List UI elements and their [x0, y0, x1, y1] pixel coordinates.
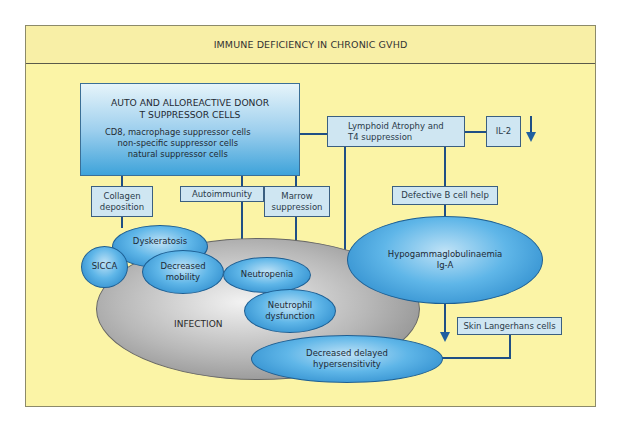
neutropenia-ellipse: Neutropenia	[223, 257, 311, 293]
donor-suppressor-cells-box: AUTO AND ALLOREACTIVE DONOR T SUPPRESSOR…	[80, 83, 300, 176]
skin-langerhans-label: Skin Langerhans cells	[463, 321, 555, 332]
donor-detail-line2: non-specific suppressor cells	[105, 138, 251, 149]
sicca-label: SICCA	[92, 261, 118, 272]
defective-b-label: Defective B cell help	[401, 190, 489, 201]
neutropenia-label: Neutropenia	[241, 269, 293, 280]
donor-detail-line3: natural suppressor cells	[105, 149, 251, 160]
connector-lymphoid-defectiveb	[444, 146, 446, 186]
defective-b-cell-box: Defective B cell help	[392, 186, 498, 205]
lymphoid-line2: T4 suppression	[348, 132, 412, 143]
connector-skin-down	[509, 333, 511, 358]
mobility-line2: mobility	[166, 272, 200, 283]
collagen-line2: deposition	[100, 202, 144, 213]
hypogammaglobulinaemia-ellipse: Hypogammaglobulinaemia Ig-A	[347, 216, 543, 304]
marrow-suppression-box: Marrow suppression	[264, 186, 330, 217]
il2-decrease-arrow-icon	[526, 132, 536, 142]
delayed-line2: hypersensitivity	[313, 359, 381, 370]
connector-skin-delayed	[440, 357, 511, 359]
connector-lymphoid-il2	[464, 131, 486, 133]
arrow-down-icon	[440, 332, 450, 342]
donor-title-line1: AUTO AND ALLOREACTIVE DONOR	[81, 97, 299, 109]
collagen-line1: Collagen	[103, 191, 140, 202]
donor-title-line2: T SUPPRESSOR CELLS	[81, 109, 299, 121]
mobility-line1: Decreased	[160, 261, 205, 272]
donor-detail-line1: CD8, macrophage suppressor cells	[105, 127, 251, 138]
neutrophil-line1: Neutrophil	[268, 300, 312, 311]
il2-box: IL-2	[486, 116, 521, 147]
lymphoid-atrophy-box: Lymphoid Atrophy and T4 suppression	[327, 116, 465, 147]
neutrophil-dysfunction-ellipse: Neutrophil dysfunction	[244, 289, 336, 333]
infection-label: INFECTION	[174, 319, 223, 329]
delayed-line1: Decreased delayed	[306, 348, 388, 359]
lymphoid-line1: Lymphoid Atrophy and	[348, 121, 444, 132]
collagen-deposition-box: Collagen deposition	[91, 186, 153, 217]
delayed-hypersensitivity-ellipse: Decreased delayed hypersensitivity	[251, 335, 443, 383]
autoimmunity-label: Autoimmunity	[192, 189, 252, 200]
hypogamma-line2: Ig-A	[437, 260, 454, 271]
il2-label: IL-2	[496, 126, 512, 137]
marrow-line1: Marrow	[281, 191, 312, 202]
marrow-line2: suppression	[272, 202, 323, 213]
autoimmunity-box: Autoimmunity	[180, 186, 264, 202]
decreased-mobility-ellipse: Decreased mobility	[142, 250, 224, 294]
connector-donor-lymphoid	[300, 133, 328, 135]
hypogamma-line1: Hypogammaglobulinaemia	[388, 249, 503, 260]
sicca-ellipse: SICCA	[81, 246, 128, 288]
diagram-title: IMMUNE DEFICIENCY IN CHRONIC GVHD	[26, 26, 595, 64]
neutrophil-line2: dysfunction	[265, 311, 315, 322]
connector-hypogamma-skin	[444, 303, 446, 333]
dyskeratosis-label: Dyskeratosis	[133, 236, 187, 247]
skin-langerhans-box: Skin Langerhans cells	[457, 317, 562, 335]
connector-collagen-dyskeratosis	[121, 216, 123, 228]
